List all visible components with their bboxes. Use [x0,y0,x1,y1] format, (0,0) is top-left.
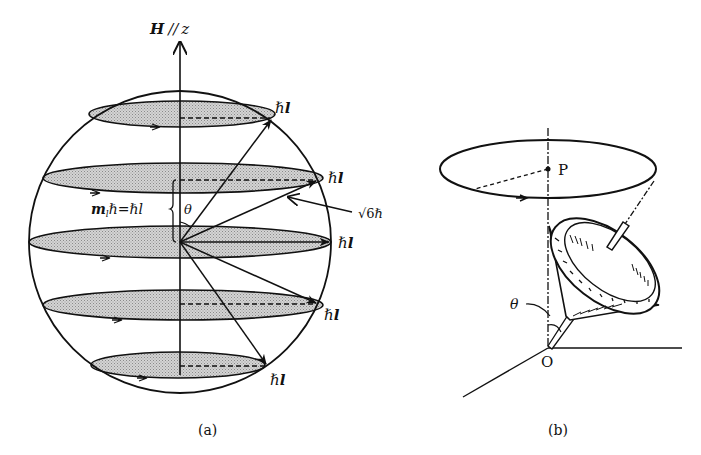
caption-b: (b) [548,422,568,438]
hl-label-3: ℏl [338,234,354,252]
disc-ml-m1 [43,290,323,320]
orbit-direction-arrow [516,195,527,201]
point-P-label: P [558,161,568,179]
ground-axis-y [463,348,548,397]
theta-label-a: θ [184,202,192,217]
hl-label-5: ℏl [270,371,286,389]
hl-label-2: ℏl [328,169,344,187]
orbit-radius [475,169,548,189]
hl-label-1: ℏl [275,99,291,117]
angular-momentum-vectors [180,120,329,364]
disc-ml-1 [43,163,323,193]
field-axis-label: H//z [149,20,189,38]
theta-pointer-b [526,304,550,316]
theta-label-b: θ [510,296,519,312]
disc-ml-m2 [91,352,265,378]
point-P [546,167,551,172]
panel-a: H//z ℏl ℏl ℏl ℏl ℏl mlℏ=ℏl θ √6ℏ (a) [29,20,383,438]
projection-label: mlℏ=ℏl [91,201,143,219]
caption-a: (a) [198,422,217,438]
magnitude-pointer [288,197,352,212]
magnitude-label: √6ℏ [358,206,383,221]
panel-b: P θ O (b) [440,128,682,438]
hl-label-4: ℏl [324,306,340,324]
spinning-top [534,200,676,349]
disc-arrow-2 [90,190,100,196]
origin-O-label: O [541,353,553,371]
figure-canvas: H//z ℏl ℏl ℏl ℏl ℏl mlℏ=ℏl θ √6ℏ (a) P [0,0,701,455]
